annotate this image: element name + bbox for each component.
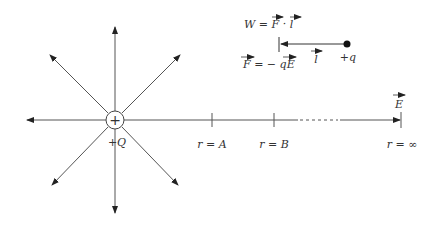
field-line-down-left xyxy=(52,127,108,185)
field-line-up-right xyxy=(122,55,180,113)
position-label-B: r = B xyxy=(259,138,289,151)
field-vector-label: E xyxy=(393,95,405,111)
charge-label: +Q xyxy=(108,136,126,149)
displacement-label: l xyxy=(311,51,322,66)
source-charge: + xyxy=(106,111,124,129)
work-equation: W = F · l xyxy=(244,17,301,31)
test-charge xyxy=(344,41,351,48)
field-line-down-right xyxy=(122,127,178,185)
test-charge-label: +q xyxy=(340,51,356,64)
charge-symbol: + xyxy=(109,112,121,128)
position-label-infinity: r = ∞ xyxy=(387,138,418,151)
displacement-vector xyxy=(279,37,346,52)
field-line-up-left xyxy=(50,55,108,113)
svg-text:E: E xyxy=(394,98,403,111)
radial-axis xyxy=(124,112,401,128)
svg-text:l: l xyxy=(314,53,318,66)
force-equation: F = − qE xyxy=(241,57,296,71)
position-label-A: r = A xyxy=(197,138,226,151)
svg-text:F = − qE: F = − qE xyxy=(242,58,295,71)
svg-text:W = F · l: W = F · l xyxy=(244,18,294,31)
field-diagram: + +Q r = A r = B r = ∞ E W = F · l +q l … xyxy=(0,0,432,227)
